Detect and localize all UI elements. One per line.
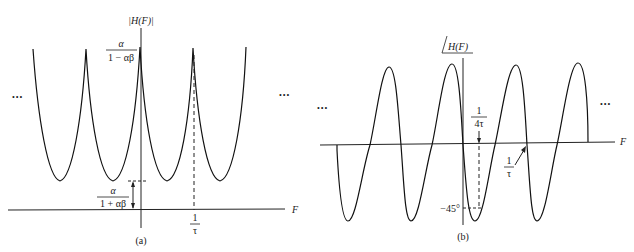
x-axis-label-a: F	[291, 204, 299, 215]
x-axis	[8, 209, 285, 210]
ellipsis-left-a: •••	[12, 93, 23, 102]
ellipsis-right-b: •••	[600, 100, 611, 109]
figure: |H(F)| F α 1 − αβ α 1 + αβ 1 τ (a) ••• •…	[0, 0, 634, 252]
ellipsis-right-a: •••	[279, 91, 290, 100]
y-axis-label-b: H(F)	[447, 41, 469, 53]
tick-label-numerator-a: 1	[193, 212, 198, 223]
arrow-down-head	[131, 203, 135, 209]
min-label-numerator: α	[110, 185, 116, 196]
magnitude-curve	[33, 47, 246, 181]
y-axis-label-a: |H(F)|	[128, 15, 154, 27]
panel-b-phase: H(F) F 1 4τ −45° 1 τ (b) ••• •••	[317, 36, 627, 243]
period-arrow-head	[521, 146, 526, 153]
ellipsis-left-b: •••	[317, 104, 328, 113]
phase-label-minus-45: −45°	[440, 203, 460, 214]
arrow-up-head	[131, 181, 135, 187]
x-axis	[320, 142, 615, 145]
quarter-label-numerator: 1	[477, 105, 482, 116]
tick-label-denominator-a: τ	[193, 225, 197, 236]
quarter-label-denominator: 4τ	[474, 118, 483, 129]
period-label-numerator-b: 1	[507, 155, 512, 166]
panel-a-magnitude: |H(F)| F α 1 − αβ α 1 + αβ 1 τ (a) ••• •…	[8, 15, 299, 247]
caption-b: (b)	[457, 231, 469, 243]
period-label-denominator-b: τ	[507, 168, 511, 179]
peak-label-numerator: α	[118, 38, 124, 49]
peak-label-denominator: 1 − αβ	[108, 52, 134, 63]
min-label-denominator: 1 + αβ	[100, 198, 126, 209]
caption-a: (a)	[135, 235, 146, 247]
x-axis-label-b: F	[619, 136, 627, 147]
period-arrow	[515, 150, 524, 165]
